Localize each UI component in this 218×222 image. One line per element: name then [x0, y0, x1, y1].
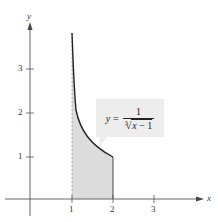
- equation-denominator: 3√x − 1: [123, 118, 155, 131]
- x-tick-label-1: 1: [69, 205, 74, 214]
- x-tick-label-3: 3: [151, 205, 156, 214]
- x-axis-label: x: [207, 194, 211, 203]
- y-axis-arrow-icon: [28, 22, 33, 30]
- x-tick-label-2: 2: [110, 205, 115, 214]
- label-pointer: [99, 136, 108, 147]
- y-axis-label: y: [27, 12, 31, 21]
- chart-figure: 1 2 3 1 2 3 x y y = 1 3√x − 1: [0, 0, 218, 222]
- equation-lhs: y: [106, 113, 110, 124]
- radicand-rest: − 1: [137, 120, 153, 131]
- equation-numerator: 1: [134, 106, 143, 118]
- equation-fraction: 1 3√x − 1: [123, 106, 155, 131]
- equation-equals: =: [113, 113, 119, 124]
- y-tick-label-2: 2: [18, 108, 23, 117]
- y-tick-label-1: 1: [18, 152, 23, 161]
- radicand: x − 1: [131, 119, 152, 131]
- equation-label: y = 1 3√x − 1: [96, 99, 164, 137]
- x-axis-arrow-icon: [196, 197, 204, 202]
- y-tick-label-3: 3: [18, 64, 23, 73]
